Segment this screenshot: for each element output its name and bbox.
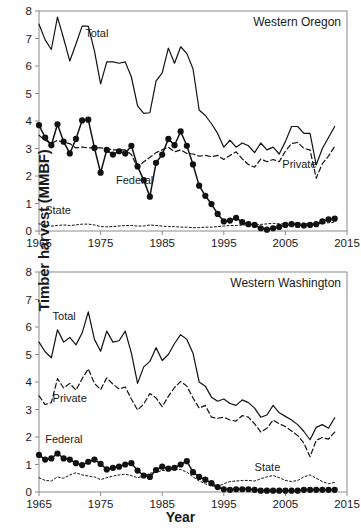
data-point	[54, 121, 60, 127]
data-point	[288, 488, 294, 494]
data-point	[116, 464, 122, 470]
series-label-private: Private	[282, 158, 316, 170]
y-tick-label: 5	[26, 349, 32, 361]
data-point	[276, 224, 282, 230]
figure-container: Timber harvest (MMBF) Year 0123456781965…	[0, 0, 361, 528]
data-point	[221, 218, 227, 224]
x-tick-label: 2015	[334, 237, 360, 249]
data-point	[264, 227, 270, 233]
data-point	[36, 452, 42, 458]
x-tick-label: 1995	[211, 237, 237, 249]
data-point	[301, 487, 307, 493]
series-label-state: State	[255, 461, 281, 473]
data-point	[245, 486, 251, 492]
data-point	[319, 487, 325, 493]
series-label-total: Total	[85, 27, 108, 39]
x-tick-label: 1985	[149, 237, 175, 249]
data-point	[67, 150, 73, 156]
data-point	[128, 143, 134, 149]
panel-frame	[39, 11, 347, 231]
data-point	[67, 456, 73, 462]
y-tick-label: 3	[26, 143, 32, 155]
data-point	[178, 461, 184, 467]
data-point	[159, 151, 165, 157]
data-point	[245, 221, 251, 227]
data-point	[153, 160, 159, 166]
panel-western-washington: 012345678196519751985199520052015Western…	[26, 266, 360, 510]
data-point	[54, 450, 60, 456]
data-point	[98, 461, 104, 467]
data-point	[325, 487, 331, 493]
data-point	[215, 484, 221, 490]
data-point	[110, 151, 116, 157]
y-tick-label: 8	[26, 266, 32, 278]
data-point	[258, 225, 264, 231]
data-point	[276, 488, 282, 494]
data-point	[104, 466, 110, 472]
data-point	[295, 222, 301, 228]
data-point	[73, 460, 79, 466]
data-point	[116, 148, 122, 154]
data-point	[85, 459, 91, 465]
data-point	[184, 458, 190, 464]
data-point	[178, 128, 184, 134]
data-point	[307, 487, 313, 493]
series-line-state	[39, 469, 335, 486]
data-point	[48, 455, 54, 461]
data-point	[122, 150, 128, 156]
data-point	[42, 456, 48, 462]
data-point	[295, 488, 301, 494]
data-point	[104, 147, 110, 153]
data-point	[110, 465, 116, 471]
data-point	[325, 216, 331, 222]
data-point	[73, 136, 79, 142]
data-point	[61, 455, 67, 461]
data-point	[270, 488, 276, 494]
x-tick-label: 1975	[88, 237, 114, 249]
series-line-private	[39, 135, 335, 178]
data-point	[215, 211, 221, 217]
y-tick-label: 3	[26, 404, 32, 416]
panel-title: Western Washington	[230, 276, 341, 290]
y-tick-label: 6	[26, 321, 32, 333]
y-tick-label: 8	[26, 5, 32, 17]
data-point	[128, 460, 134, 466]
data-point	[313, 487, 319, 493]
data-point	[288, 221, 294, 227]
data-point	[270, 225, 276, 231]
data-point	[221, 486, 227, 492]
y-tick-label: 7	[26, 33, 32, 45]
data-point	[147, 194, 153, 200]
data-point	[239, 486, 245, 492]
y-tick-label: 1	[26, 198, 32, 210]
data-point	[233, 215, 239, 221]
data-point	[332, 487, 338, 493]
data-point	[282, 222, 288, 228]
y-tick-label: 0	[26, 225, 32, 237]
data-point	[165, 136, 171, 142]
data-point	[202, 477, 208, 483]
data-point	[282, 488, 288, 494]
series-markers-federal	[36, 117, 338, 233]
data-point	[184, 143, 190, 149]
y-tick-label: 4	[26, 376, 33, 388]
x-axis-title: Year	[0, 509, 361, 525]
data-point	[208, 201, 214, 207]
data-point	[165, 466, 171, 472]
data-point	[227, 217, 233, 223]
y-tick-label: 2	[26, 170, 32, 182]
data-point	[122, 461, 128, 467]
data-point	[190, 469, 196, 475]
data-point	[79, 462, 85, 468]
series-line-total	[39, 312, 335, 440]
data-point	[239, 219, 245, 225]
data-point	[141, 472, 147, 478]
y-tick-label: 1	[26, 459, 32, 471]
data-point	[190, 161, 196, 167]
series-label-federal: Federal	[116, 174, 153, 186]
series-label-federal: Federal	[45, 433, 82, 445]
y-tick-label: 4	[26, 115, 33, 127]
y-tick-label: 0	[26, 486, 32, 498]
data-point	[79, 117, 85, 123]
data-point	[233, 486, 239, 492]
